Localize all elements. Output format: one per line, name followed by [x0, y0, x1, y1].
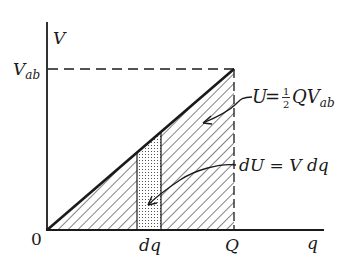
- svg-text:QVab: QVab: [292, 86, 335, 110]
- svg-text:1: 1: [283, 86, 289, 97]
- capacitor-energy-diagram: V Vab 0 dq Q q U = 1 2 QVab dU = V dq: [0, 0, 362, 264]
- y-axis-label: V: [53, 28, 67, 48]
- x-axis-label: q: [307, 233, 318, 253]
- svg-text:dU = V dq: dU = V dq: [239, 155, 329, 175]
- svg-text:=: =: [265, 86, 280, 107]
- Q-label: Q: [225, 235, 239, 255]
- origin-label: 0: [31, 229, 42, 249]
- svg-text:2: 2: [283, 99, 289, 110]
- vab-label: Vab: [13, 59, 40, 82]
- dq-label: dq: [139, 235, 161, 255]
